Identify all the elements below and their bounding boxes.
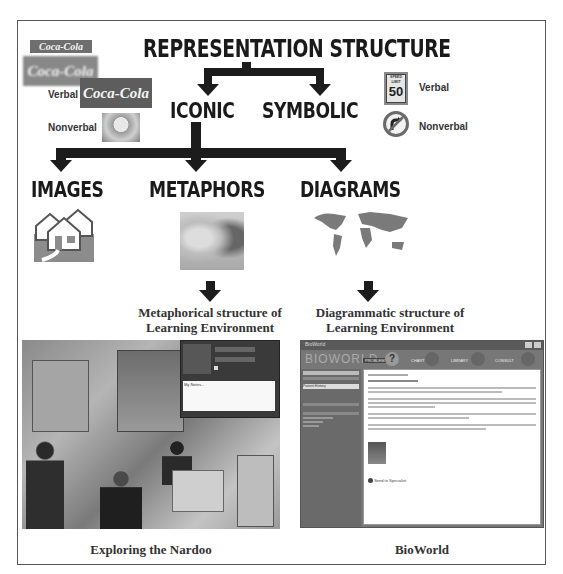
caption-bioworld: BioWorld: [300, 542, 544, 557]
label-metaphors: METAPHORS: [149, 177, 265, 202]
symbolic-nonverbal-label: Nonverbal: [419, 121, 468, 132]
nav-consult[interactable]: CONSULT: [495, 358, 514, 363]
arrow-to-metaphors: [185, 160, 207, 172]
caption-nardoo: Exploring the Nardoo: [22, 542, 280, 557]
window-maximize-icon[interactable]: [525, 342, 532, 348]
speed-limit-sign: SPEED LIMIT 50: [384, 72, 408, 105]
iconic-nonverbal-label: Nonverbal: [48, 122, 97, 133]
bioworld-sidebar: Patient History: [301, 369, 361, 528]
bioworld-content: Send to Specialist: [363, 369, 541, 525]
arrow-to-metaphorical: [199, 290, 221, 302]
symbolic-verbal-label: Verbal: [419, 82, 449, 93]
connector-bar-level2: [56, 148, 346, 158]
label-images: IMAGES: [31, 177, 104, 202]
sign-value: 50: [387, 85, 405, 99]
title-representation-structure: REPRESENTATION STRUCTURE: [143, 35, 451, 63]
nav-chart[interactable]: CHART: [411, 358, 425, 363]
coca-cola-logo-large: Coca-Cola: [80, 78, 152, 108]
nardoo-screenshot: My Notes...: [22, 340, 280, 529]
arrow-to-symbolic: [309, 84, 331, 96]
bioworld-window-title: BioWorld: [305, 341, 325, 347]
label-symbolic: SYMBOLIC: [262, 98, 358, 123]
arrow-to-diagrams: [330, 160, 352, 172]
world-map-image: [312, 208, 412, 260]
window-close-icon[interactable]: [534, 342, 541, 348]
person-center: [100, 470, 142, 529]
label-diagrams: DIAGRAMS: [300, 177, 401, 202]
coca-cola-logo-small: Coca-Cola: [30, 40, 92, 53]
label-iconic: ICONIC: [170, 98, 235, 123]
nardoo-control-panel: My Notes...: [180, 340, 280, 418]
nardoo-notes-box[interactable]: My Notes...: [183, 381, 275, 411]
arrow-to-diagrammatic: [357, 290, 379, 302]
send-to-specialist-link[interactable]: Send to Specialist: [368, 478, 536, 483]
caption-diagrammatic: Diagrammatic structure of Learning Envir…: [280, 305, 500, 335]
person-left: [26, 440, 64, 529]
bioworld-screenshot: BioWorld BIOWORLD PROBLEM ? CHART LIBRAR…: [300, 340, 544, 528]
send-icon: [368, 478, 373, 483]
sidebar-field[interactable]: Patient History: [303, 384, 359, 389]
arrow-to-images: [50, 160, 72, 172]
no-turn-sign-icon: [383, 111, 409, 137]
arrow-to-iconic: [197, 84, 219, 96]
bioworld-nav: PROBLEM ? CHART LIBRARY CONSULT: [363, 354, 543, 368]
patient-photo: [368, 442, 386, 464]
iconic-verbal-label: Verbal: [48, 89, 78, 100]
houses-icon: [34, 204, 94, 262]
nav-problem[interactable]: PROBLEM: [363, 358, 387, 363]
connector-bar-level1: [204, 68, 323, 76]
bioworld-titlebar: BioWorld: [301, 341, 543, 350]
face-photo: [102, 113, 140, 142]
caption-diagrammatic-line1: Diagrammatic structure of: [280, 305, 500, 320]
nav-library[interactable]: LIBRARY: [451, 358, 468, 363]
cherub-image: [180, 212, 244, 270]
nav-help-icon[interactable]: ?: [385, 352, 399, 366]
caption-diagrammatic-line2: Learning Environment: [280, 320, 500, 335]
